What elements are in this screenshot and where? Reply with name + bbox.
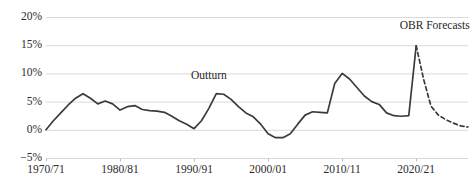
- x-axis-tick-label: 2010/11: [323, 164, 360, 176]
- annotation-outturn: Outturn: [191, 70, 227, 82]
- y-axis-tick-label: 10%: [4, 67, 42, 79]
- series-line-outturn: [46, 46, 416, 138]
- y-axis-tick-label: 0%: [4, 124, 42, 136]
- annotation-obr-forecasts: OBR Forecasts: [400, 20, 470, 32]
- data-series: [46, 46, 468, 138]
- series-line-obr-forecasts: [416, 46, 468, 127]
- y-axis-tick-label: 20%: [4, 11, 42, 23]
- x-axis-tick-label: 1990/91: [175, 164, 213, 176]
- x-axis-tick-label: 2000/01: [249, 164, 287, 176]
- y-axis-tick-label: −5%: [4, 152, 42, 164]
- chart-container: −5%0%5%10%15%20% 1970/711980/811990/9120…: [0, 0, 470, 192]
- gridlines: [46, 18, 468, 159]
- x-axis-tick-label: 1980/81: [101, 164, 139, 176]
- y-axis-tick-label: 15%: [4, 39, 42, 51]
- y-axis-tick-label: 5%: [4, 96, 42, 108]
- x-axis-tick-label: 1970/71: [27, 164, 65, 176]
- x-axis-tick-label: 2020/21: [397, 164, 435, 176]
